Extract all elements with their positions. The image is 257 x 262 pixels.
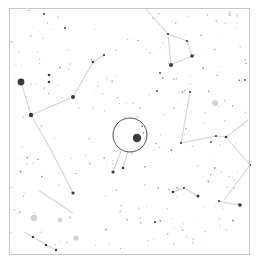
faint-star: [40, 231, 41, 232]
faint-star: [201, 245, 202, 246]
faint-star: [94, 93, 95, 94]
faint-star: [14, 145, 15, 146]
faint-star: [219, 225, 221, 227]
faint-star: [137, 116, 139, 118]
faint-star: [20, 171, 22, 173]
faint-star: [159, 220, 161, 222]
faint-star: [192, 145, 194, 147]
faint-star: [204, 231, 206, 233]
faint-star: [58, 184, 59, 185]
faint-star: [75, 173, 76, 174]
faint-star: [236, 23, 237, 24]
faint-star: [158, 13, 160, 15]
star: [92, 61, 94, 63]
faint-star: [229, 12, 231, 14]
faint-star: [182, 227, 183, 228]
faint-star: [108, 86, 109, 87]
faint-star: [237, 170, 239, 172]
star: [154, 221, 156, 223]
faint-star: [79, 170, 80, 171]
faint-star: [127, 39, 128, 40]
faint-star: [197, 165, 198, 166]
faint-star: [106, 162, 107, 163]
faint-star: [237, 15, 239, 17]
faint-star: [44, 88, 45, 89]
star: [169, 63, 173, 67]
faint-star: [208, 91, 210, 93]
faint-star: [217, 22, 218, 23]
star: [32, 236, 34, 238]
faint-star: [224, 100, 225, 101]
faint-star: [169, 158, 170, 159]
faint-star: [14, 209, 16, 211]
faint-star: [26, 96, 27, 97]
faint-star: [234, 179, 235, 180]
faint-star: [51, 28, 52, 29]
faint-star: [105, 195, 106, 196]
faint-star: [159, 147, 160, 148]
faint-star: [89, 138, 90, 139]
faint-star: [174, 158, 175, 159]
faint-star: [104, 110, 106, 112]
star: [238, 203, 242, 207]
faint-star: [118, 153, 119, 154]
faint-star: [143, 132, 145, 134]
faint-star: [19, 211, 21, 213]
faint-star: [39, 31, 40, 32]
faint-star: [156, 184, 157, 185]
faint-star: [161, 233, 162, 234]
faint-star: [176, 78, 177, 79]
faint-star: [112, 160, 114, 162]
faint-star: [183, 138, 184, 139]
faint-star: [147, 206, 148, 207]
faint-star: [32, 109, 33, 110]
faint-star: [126, 219, 127, 220]
faint-star: [116, 76, 117, 77]
star: [218, 200, 220, 202]
faint-star: [76, 170, 77, 171]
faint-star: [245, 63, 246, 64]
faint-star: [103, 57, 104, 58]
faint-star: [190, 84, 191, 85]
faint-star: [34, 213, 35, 214]
star: [190, 54, 194, 58]
faint-star: [185, 33, 186, 34]
faint-star: [180, 47, 181, 48]
faint-star: [24, 20, 25, 21]
star: [133, 134, 141, 142]
faint-star: [219, 66, 220, 67]
star: [156, 90, 158, 92]
faint-star: [200, 51, 201, 52]
faint-star: [39, 59, 40, 60]
faint-star: [168, 189, 170, 191]
faint-star: [30, 83, 31, 84]
faint-star: [204, 112, 206, 114]
chart-background: [0, 0, 257, 262]
star: [167, 33, 169, 35]
faint-star: [159, 47, 161, 49]
star: [18, 79, 25, 86]
star: [172, 191, 175, 194]
faint-star: [190, 76, 191, 77]
faint-star: [144, 166, 146, 168]
faint-star: [238, 79, 240, 81]
star-chart: [0, 0, 257, 262]
faint-star: [11, 41, 12, 42]
faint-star: [229, 14, 231, 16]
faint-star: [24, 192, 25, 193]
faint-star: [139, 217, 141, 219]
faint-star: [86, 80, 87, 81]
faint-star: [85, 155, 86, 156]
faint-star: [214, 49, 216, 51]
faint-star: [65, 212, 66, 213]
faint-star: [245, 112, 246, 113]
faint-star: [228, 205, 229, 206]
faint-star: [68, 69, 69, 70]
faint-star: [30, 36, 31, 37]
faint-star: [73, 63, 74, 64]
faint-star: [218, 38, 219, 39]
faint-star: [61, 241, 62, 242]
faint-star: [140, 222, 142, 224]
faint-star: [42, 38, 43, 39]
faint-star: [185, 128, 186, 129]
